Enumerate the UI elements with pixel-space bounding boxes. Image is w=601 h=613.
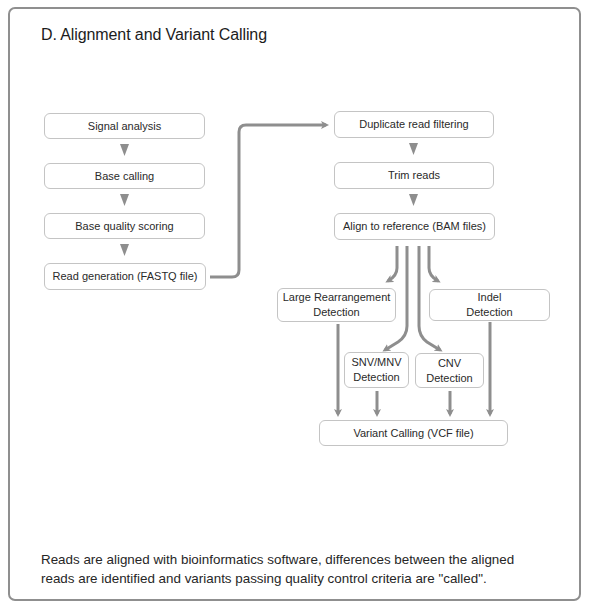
- step-variant-calling: Variant Calling (VCF file): [319, 420, 508, 446]
- step-snv-mnv-detection: SNV/MNV Detection: [344, 352, 409, 388]
- figure-caption: Reads are aligned with bioinformatics so…: [41, 550, 581, 588]
- step-signal-analysis: Signal analysis: [44, 113, 205, 139]
- step-large-rearrangement-detection: Large Rearrangement Detection: [277, 288, 396, 322]
- step-align-to-reference: Align to reference (BAM files): [334, 213, 495, 240]
- step-indel-detection: Indel Detection: [429, 289, 550, 321]
- caption-line-1: Reads are aligned with bioinformatics so…: [41, 550, 581, 569]
- caption-line-2: reads are identified and variants passin…: [41, 569, 581, 588]
- step-trim-reads: Trim reads: [334, 162, 494, 189]
- step-cnv-detection: CNV Detection: [415, 353, 484, 388]
- step-duplicate-read-filtering: Duplicate read filtering: [334, 111, 494, 138]
- step-read-generation: Read generation (FASTQ file): [44, 263, 206, 290]
- step-base-quality-scoring: Base quality scoring: [44, 213, 205, 239]
- step-base-calling: Base calling: [44, 163, 205, 189]
